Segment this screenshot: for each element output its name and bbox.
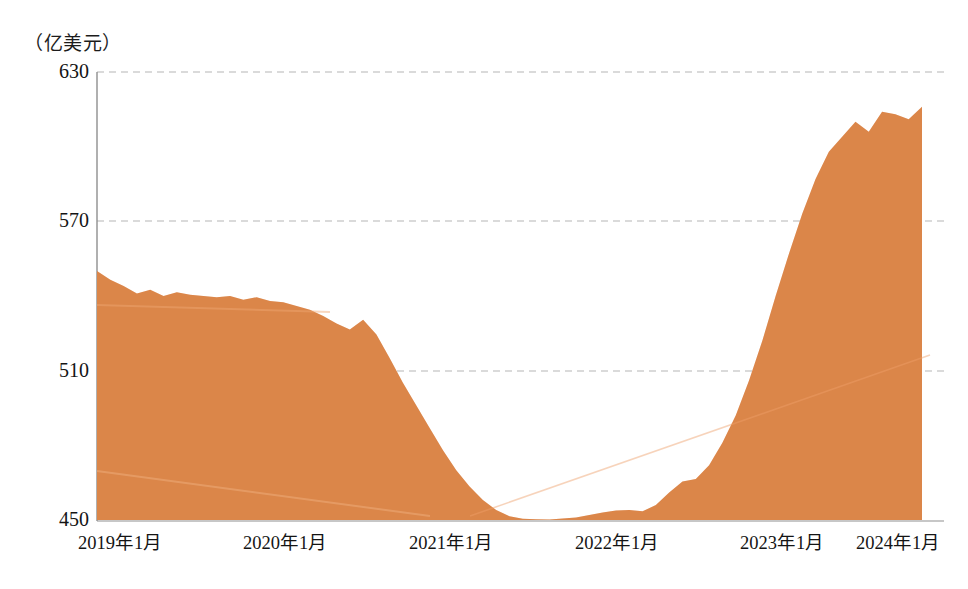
area-series-texture [97,107,922,520]
x-tick-label-2020: 2020年1月 [243,528,327,554]
x-tick-label-2021: 2021年1月 [409,528,493,554]
x-tick-label-2024: 2024年1月 [856,528,940,554]
x-tick-label-2019: 2019年1月 [78,528,162,554]
area-chart: （亿美元） 630 570 510 450 [0,0,968,589]
x-tick-label-2022: 2022年1月 [575,528,659,554]
x-tick-label-2023: 2023年1月 [740,528,824,554]
plot-area [0,0,968,589]
